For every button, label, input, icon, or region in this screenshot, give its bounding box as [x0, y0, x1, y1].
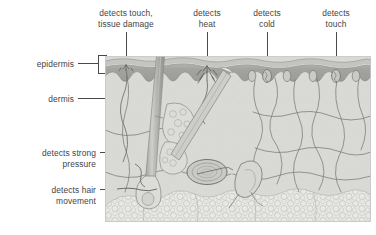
- leader-epidermis: [78, 63, 98, 64]
- label-hair-follicle-receptor: detects hair movement: [4, 185, 96, 206]
- label-free-nerve-ending: detects touch, tissue damage: [78, 8, 174, 29]
- label-epidermis: epidermis: [4, 59, 74, 70]
- label-pacinian-corpuscle: detects strong pressure: [4, 148, 96, 169]
- label-touch-receptor: detects touch: [309, 8, 363, 29]
- touch-receptor-bulb: [332, 70, 341, 83]
- label-dermis: dermis: [4, 94, 74, 105]
- label-heat-receptor: detects heat: [180, 8, 234, 29]
- label-cold-receptor: detects cold: [240, 8, 294, 29]
- skin-cross-section-artwork: [105, 56, 371, 222]
- diagram-canvas: detects touch, tissue damage detects hea…: [0, 0, 376, 235]
- cold-receptor-bulb: [263, 70, 272, 83]
